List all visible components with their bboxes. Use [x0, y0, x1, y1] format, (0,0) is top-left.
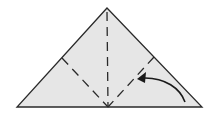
origami-diagram: [0, 0, 208, 114]
paper-triangle: [17, 8, 202, 107]
